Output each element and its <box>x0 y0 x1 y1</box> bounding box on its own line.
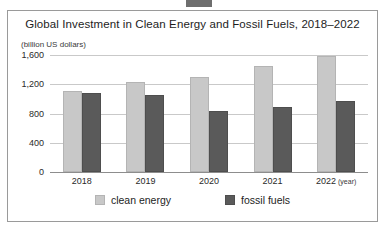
legend-item-fossil-fuels[interactable]: fossil fuels <box>225 194 290 206</box>
x-axis-unit-label: (year) <box>336 178 356 185</box>
chart-legend: clean energyfossil fuels <box>8 194 377 206</box>
y-tick-label-0: 0 <box>39 167 44 177</box>
chart-title: Global Investment in Clean Energy and Fo… <box>8 18 377 30</box>
x-tick-label-2022: 2022 (year) <box>316 176 356 186</box>
bar-clean-energy-2021 <box>254 66 273 172</box>
bar-fossil-fuels-2022 <box>336 101 355 172</box>
bar-clean-energy-2022 <box>317 56 336 172</box>
bar-clean-energy-2020 <box>190 77 209 172</box>
legend-swatch-icon-fossil-fuels <box>225 195 235 205</box>
bar-group-2022 <box>304 55 368 172</box>
bar-group-2019 <box>114 55 178 172</box>
legend-swatch-icon-clean-energy <box>95 195 105 205</box>
x-tick-label-2021: 2021 <box>263 176 283 186</box>
x-tick-label-2018: 2018 <box>72 176 92 186</box>
y-tick-label-400: 400 <box>29 138 44 148</box>
gridline-0: 0 <box>50 172 368 173</box>
bar-group-2021 <box>241 55 305 172</box>
bar-fossil-fuels-2019 <box>145 95 164 172</box>
chart-screenshot: Global Investment in Clean Energy and Fo… <box>0 0 385 228</box>
bar-fossil-fuels-2018 <box>82 93 101 172</box>
top-marker-tab <box>186 0 212 7</box>
x-tick-label-2019: 2019 <box>135 176 155 186</box>
legend-item-clean-energy[interactable]: clean energy <box>95 194 171 206</box>
y-tick-label-1200: 1,200 <box>21 79 44 89</box>
bar-series-container <box>50 55 368 172</box>
y-axis-units-label: (billion US dollars) <box>21 40 86 49</box>
y-tick-label-800: 800 <box>29 109 44 119</box>
bar-group-2018 <box>50 55 114 172</box>
plot-area: 04008001,2001,600 20182019202020212022 (… <box>50 55 368 182</box>
y-tick-label-1600: 1,600 <box>21 50 44 60</box>
bar-clean-energy-2018 <box>63 91 82 172</box>
legend-label: clean energy <box>111 194 171 206</box>
x-tick-label-2020: 2020 <box>199 176 219 186</box>
bar-fossil-fuels-2021 <box>273 107 292 172</box>
bar-group-2020 <box>177 55 241 172</box>
chart-frame: Global Investment in Clean Energy and Fo… <box>7 10 378 222</box>
bar-fossil-fuels-2020 <box>209 111 228 172</box>
legend-label: fossil fuels <box>241 194 290 206</box>
bar-clean-energy-2019 <box>126 82 145 172</box>
